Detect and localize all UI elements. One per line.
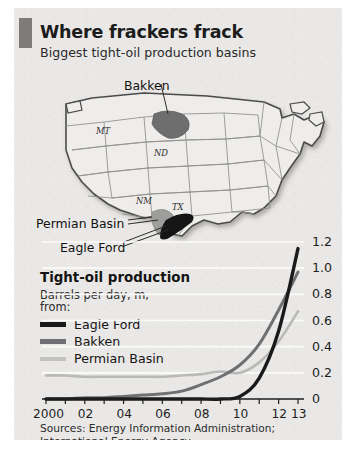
chart-panel: Where frackers frack Biggest tight-oil p… (14, 8, 342, 440)
y-axis-tick-label: 0.6 (312, 313, 332, 328)
y-axis-tick-label: 0.4 (312, 339, 332, 354)
infographic: Where frackers frack Biggest tight-oil p… (0, 0, 356, 472)
state-label-nd: ND (153, 148, 168, 158)
y-axis-tick-label: 0 (312, 391, 320, 406)
y-axis-tick-label: 1.2 (312, 234, 332, 249)
series-line-bakken (46, 272, 298, 399)
x-axis-tick-label: 10 (233, 407, 249, 421)
y-axis-tick-label: 1.0 (312, 260, 332, 275)
page-title: Where frackers frack (40, 22, 243, 42)
x-axis-tick-label: 02 (78, 407, 94, 421)
y-axis-tick-label: 0.2 (312, 365, 332, 380)
x-axis-tick-label: 06 (155, 407, 171, 421)
page-subtitle: Biggest tight-oil production basins (40, 45, 256, 60)
line-chart: 00.20.40.60.81.01.2 200002040608101213 (32, 234, 338, 434)
y-axis-tick-label: 0.8 (312, 286, 332, 301)
line-chart-svg (32, 234, 338, 434)
map-label-permian-basin: Permian Basin (36, 216, 124, 231)
header-accent-bar (19, 18, 32, 48)
state-label-mt: MT (95, 126, 112, 136)
x-axis-tick-label: 12 (272, 407, 288, 421)
x-axis-tick-label: 13 (291, 407, 307, 421)
sources-note: Sources: Energy Information Administrati… (40, 422, 275, 440)
x-axis-tick-label: 04 (117, 407, 133, 421)
chart-series-paths (46, 249, 298, 400)
chart-gridlines (42, 242, 304, 373)
state-label-tx: TX (172, 202, 185, 212)
x-axis-tick-label: 08 (194, 407, 210, 421)
x-axis-tick-label: 2000 (33, 407, 64, 421)
chart-x-axis (42, 399, 304, 404)
state-label-nm: NM (135, 196, 152, 206)
